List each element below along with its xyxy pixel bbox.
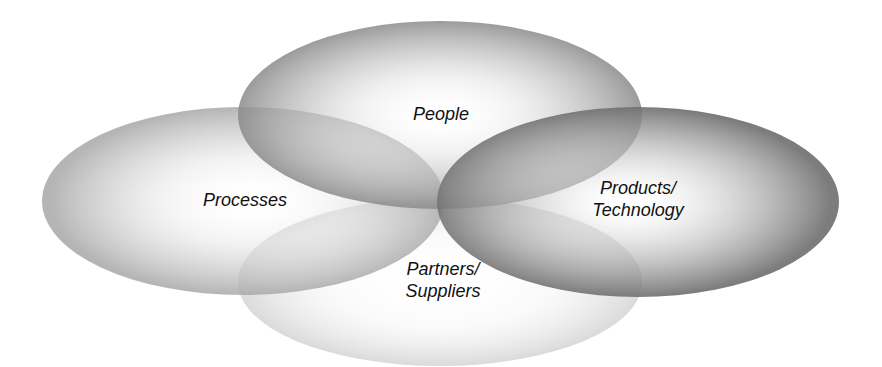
products-label-line1: Products/ bbox=[573, 177, 703, 199]
products-label-line2: Technology bbox=[573, 199, 703, 221]
partners-label-line1: Partners/ bbox=[378, 258, 508, 280]
processes-label-text: Processes bbox=[180, 189, 310, 211]
venn-diagram: People Processes Products/ Technology Pa… bbox=[0, 0, 882, 367]
partners-label: Partners/ Suppliers bbox=[378, 258, 508, 302]
people-label-text: People bbox=[396, 103, 486, 125]
processes-label: Processes bbox=[180, 189, 310, 211]
products-label: Products/ Technology bbox=[573, 177, 703, 221]
people-label: People bbox=[396, 103, 486, 125]
ellipses-graphic bbox=[0, 0, 882, 367]
partners-label-line2: Suppliers bbox=[378, 280, 508, 302]
